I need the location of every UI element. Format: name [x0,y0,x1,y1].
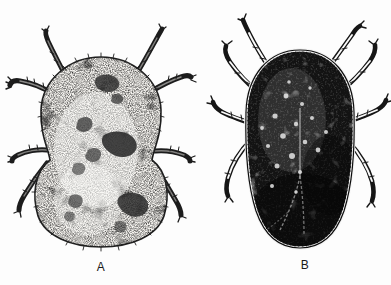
figure-a-body [32,53,170,251]
figure-b-caption: B [285,258,325,272]
illustration-plate: A B [0,0,391,285]
figure-a-caption: A [81,260,121,274]
mite-plate-svg [0,0,391,285]
